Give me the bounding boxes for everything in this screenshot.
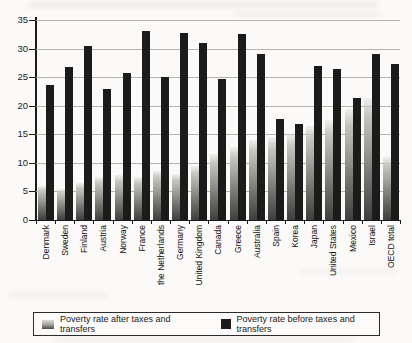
x-label-united-kingdom: United Kingdom <box>193 225 205 309</box>
legend-before-label: Poverty rate before taxes and transfers <box>237 314 379 334</box>
bar-before-united-states <box>333 69 341 220</box>
bar-after-greece <box>230 147 238 220</box>
bar-after-israel <box>364 98 372 220</box>
after-taxes-swatch-icon <box>42 320 54 329</box>
y-tick-label-5: 5 <box>2 186 28 196</box>
y-tick-20 <box>29 106 35 107</box>
x-label-united-states: United States <box>327 225 339 309</box>
legend-entry-after: Poverty rate after taxes and transfers <box>42 314 195 334</box>
bar-before-germany <box>180 33 188 220</box>
bar-before-japan <box>314 66 322 220</box>
bar-after-sweden <box>57 189 65 220</box>
bar-after-oecd-total <box>383 157 391 220</box>
gridline-35 <box>36 20 400 21</box>
bar-before-austria <box>103 89 111 220</box>
x-label-austria: Austria <box>97 225 109 309</box>
x-tick <box>189 220 190 224</box>
y-tick-label-10: 10 <box>2 158 28 168</box>
bar-before-korea <box>295 124 303 220</box>
scan-artifact <box>28 2 378 8</box>
x-label-norway: Norway <box>117 225 129 309</box>
y-tick-label-35: 35 <box>2 15 28 25</box>
x-tick <box>36 220 37 224</box>
x-tick <box>304 220 305 224</box>
x-tick <box>74 220 75 224</box>
x-label-japan: Japan <box>308 225 320 309</box>
bar-before-australia <box>257 54 265 220</box>
x-label-oecd-total: OECD total <box>385 225 397 309</box>
y-tick-10 <box>29 163 35 164</box>
bar-after-australia <box>249 140 257 220</box>
y-tick-label-30: 30 <box>2 44 28 54</box>
bar-after-united-kingdom <box>191 166 199 220</box>
x-tick <box>93 220 94 224</box>
x-tick <box>266 220 267 224</box>
bar-before-united-kingdom <box>199 43 207 220</box>
bar-after-norway <box>115 175 123 220</box>
plot-area <box>36 20 400 220</box>
bar-before-norway <box>123 73 131 220</box>
y-tick-25 <box>29 77 35 78</box>
legend-after-label: Poverty rate after taxes and transfers <box>60 314 196 334</box>
x-tick <box>323 220 324 224</box>
x-label-canada: Canada <box>212 225 224 309</box>
x-label-mexico: Mexico <box>347 225 359 309</box>
x-label-denmark: Denmark <box>40 225 52 309</box>
bar-before-oecd-total <box>391 64 399 220</box>
bar-before-france <box>142 31 150 220</box>
y-tick-label-15: 15 <box>2 129 28 139</box>
bar-after-austria <box>95 177 103 220</box>
y-tick-label-25: 25 <box>2 72 28 82</box>
y-tick-30 <box>29 49 35 50</box>
bar-before-greece <box>238 34 246 220</box>
bar-after-denmark <box>38 186 46 220</box>
x-tick <box>55 220 56 224</box>
x-tick <box>285 220 286 224</box>
x-label-greece: Greece <box>232 225 244 309</box>
y-tick-15 <box>29 134 35 135</box>
bar-before-spain <box>276 119 284 220</box>
x-tick <box>151 220 152 224</box>
bar-after-canada <box>210 154 218 220</box>
bar-after-mexico <box>345 109 353 220</box>
x-tick <box>132 220 133 224</box>
poverty-rate-bar-chart: 05101520253035 DenmarkSwedenFinlandAustr… <box>0 0 412 343</box>
bar-after-germany <box>172 174 180 220</box>
x-tick <box>113 220 114 224</box>
x-label-sweden: Sweden <box>59 225 71 309</box>
bar-before-sweden <box>65 67 73 220</box>
bar-after-korea <box>287 134 295 220</box>
y-tick-label-0: 0 <box>2 215 28 225</box>
scan-artifact <box>8 292 108 298</box>
x-label-australia: Australia <box>251 225 263 309</box>
x-tick <box>343 220 344 224</box>
chart-legend: Poverty rate after taxes and transfers P… <box>33 312 380 336</box>
x-label-the-netherlands: the Netherlands <box>155 225 167 309</box>
x-tick <box>208 220 209 224</box>
bar-after-spain <box>268 137 276 220</box>
bar-after-united-states <box>325 120 333 220</box>
bar-before-the-netherlands <box>161 77 169 220</box>
x-label-israel: Israel <box>366 225 378 309</box>
scan-artifact <box>55 336 355 341</box>
x-tick <box>247 220 248 224</box>
x-label-spain: Spain <box>270 225 282 309</box>
bar-after-japan <box>306 126 314 220</box>
x-tick <box>362 220 363 224</box>
bar-before-denmark <box>46 85 54 220</box>
legend-entry-before: Poverty rate before taxes and transfers <box>221 314 379 334</box>
bar-before-finland <box>84 46 92 220</box>
bar-after-the-netherlands <box>153 171 161 220</box>
x-label-korea: Korea <box>289 225 301 309</box>
y-tick-5 <box>29 191 35 192</box>
x-tick <box>170 220 171 224</box>
y-tick-0 <box>29 220 35 221</box>
bar-after-finland <box>76 183 84 220</box>
x-tick <box>381 220 382 224</box>
x-tick <box>228 220 229 224</box>
x-label-finland: Finland <box>78 225 90 309</box>
bar-before-canada <box>218 79 226 220</box>
before-taxes-swatch-icon <box>221 319 230 329</box>
y-tick-label-20: 20 <box>2 101 28 111</box>
x-tick <box>400 220 401 224</box>
